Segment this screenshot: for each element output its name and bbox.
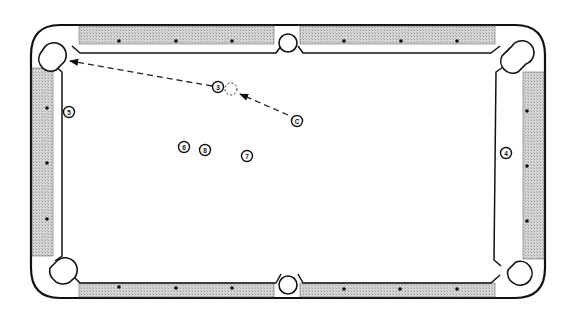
ball-6[interactable]: 6	[179, 142, 190, 153]
cue-ball[interactable]: C	[292, 116, 303, 127]
rail-bottom-left	[79, 283, 274, 297]
ball-5[interactable]: 5	[64, 107, 75, 118]
diamond	[174, 39, 178, 43]
ball-4-label: 4	[504, 150, 508, 157]
diamond	[230, 39, 234, 43]
diamond	[455, 287, 459, 291]
diamond	[399, 39, 403, 43]
ball-6-label: 6	[182, 144, 186, 151]
diamond	[525, 109, 529, 113]
pocket-top-middle	[279, 34, 297, 52]
ball-4[interactable]: 4	[501, 148, 512, 159]
ball-7-label: 7	[245, 153, 249, 160]
rail-left	[32, 68, 53, 256]
diamond	[455, 39, 459, 43]
diamond	[525, 219, 529, 223]
diamond	[174, 286, 178, 290]
ghost-ball	[225, 83, 237, 95]
pocket-bottom-middle	[279, 276, 297, 294]
rail-bottom-right	[300, 283, 495, 297]
diamond	[342, 39, 346, 43]
cue-ball-label: C	[295, 118, 300, 125]
ball-7[interactable]: 7	[242, 151, 253, 162]
table-outline	[31, 25, 545, 298]
diamond	[342, 287, 346, 291]
diamond	[117, 285, 121, 289]
ball-8[interactable]: 8	[200, 145, 211, 156]
diamond	[525, 164, 529, 168]
pool-table-diagram: 3 C 5 6 8 7 4	[0, 0, 571, 321]
diamond	[45, 106, 49, 110]
ball-3-label: 3	[216, 84, 220, 91]
ball-3[interactable]: 3	[213, 82, 224, 93]
diamond	[45, 161, 49, 165]
ball-5-label: 5	[67, 109, 71, 116]
rail-top-right	[300, 26, 495, 44]
ball-8-label: 8	[203, 147, 207, 154]
diamond	[45, 217, 49, 221]
diamond	[398, 287, 402, 291]
diamond	[117, 39, 121, 43]
diamond	[230, 286, 234, 290]
